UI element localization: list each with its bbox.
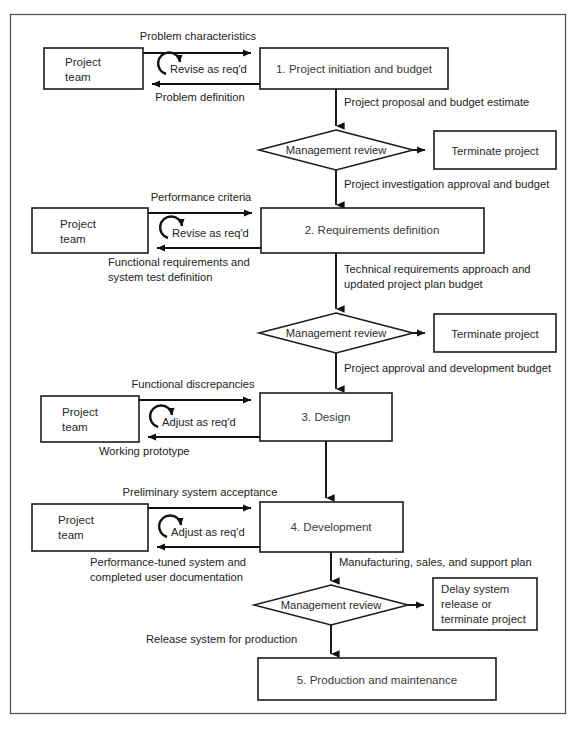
- edge-label-preliminary-system-acceptance: Preliminary system acceptance: [123, 486, 278, 498]
- delay-system-label-line1: Delay system: [441, 583, 509, 595]
- edge-label-functional-requirements-line2: system test definition: [108, 271, 212, 283]
- edge-label-project-investigation-approval: Project investigation approval and budge…: [344, 178, 550, 190]
- project-team-label-3-line1: Project: [62, 405, 99, 418]
- project-team-label-2-line2: team: [60, 232, 86, 245]
- edge-label-problem-characteristics: Problem characteristics: [140, 30, 257, 42]
- delay-system-label-line3: terminate project: [441, 613, 527, 625]
- edge-label-technical-requirements-line1: Technical requirements approach and: [344, 263, 531, 275]
- stage-label-3: 3. Design: [302, 410, 351, 423]
- project-team-label-4-line2: team: [58, 528, 84, 541]
- project-team-label-1-line2: team: [65, 70, 91, 83]
- delay-system-label-line2: release or: [441, 598, 492, 610]
- edge-label-project-approval-development-budget: Project approval and development budget: [344, 362, 552, 374]
- project-team-box-3: [41, 396, 139, 442]
- loop-label-4: Adjust as req'd: [171, 526, 245, 538]
- edge-label-performance-criteria: Performance criteria: [151, 191, 252, 203]
- flowchart-canvas: Project team 1. Project initiation and b…: [0, 0, 579, 730]
- edge-label-problem-definition: Problem definition: [155, 91, 245, 103]
- project-team-label-4-line1: Project: [58, 513, 95, 526]
- project-team-box-2: [32, 208, 148, 253]
- project-team-label-1-line1: Project: [65, 55, 102, 68]
- edge-label-project-proposal-budget-estimate: Project proposal and budget estimate: [344, 96, 529, 108]
- project-team-box-4: [32, 504, 148, 551]
- edge-label-performance-tuned-line2: completed user documentation: [90, 571, 243, 583]
- loop-label-2: Revise as req'd: [172, 227, 249, 239]
- stage-label-4: 4. Development: [290, 520, 372, 533]
- management-review-label-2: Management review: [286, 327, 388, 339]
- edge-label-manufacturing-sales-support: Manufacturing, sales, and support plan: [339, 556, 532, 568]
- edge-label-working-prototype: Working prototype: [99, 445, 190, 457]
- loop-label-3: Adjust as req'd: [162, 416, 236, 428]
- edge-label-technical-requirements-line2: updated project plan budget: [344, 278, 484, 290]
- stage-label-2: 2. Requirements definition: [305, 223, 440, 236]
- edge-label-release-system-for-production: Release system for production: [146, 633, 297, 645]
- management-review-label-3: Management review: [281, 599, 383, 611]
- stage-label-5: 5. Production and maintenance: [297, 673, 458, 686]
- edge-label-performance-tuned-line1: Performance-tuned system and: [90, 556, 246, 568]
- terminate-project-label-2: Terminate project: [451, 328, 539, 340]
- loop-label-1: Revise as req'd: [170, 63, 247, 75]
- management-review-label-1: Management review: [286, 144, 388, 156]
- project-team-label-3-line2: team: [62, 420, 88, 433]
- project-team-label-2-line1: Project: [60, 217, 97, 230]
- edge-label-functional-requirements-line1: Functional requirements and: [108, 256, 250, 268]
- terminate-project-label-1: Terminate project: [451, 145, 539, 157]
- stage-label-1: 1. Project initiation and budget: [276, 62, 433, 75]
- edge-label-functional-discrepancies: Functional discrepancies: [131, 378, 255, 390]
- figure-root: Project team 1. Project initiation and b…: [0, 0, 579, 730]
